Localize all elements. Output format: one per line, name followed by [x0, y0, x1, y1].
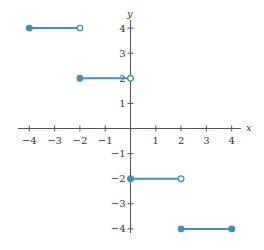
step-segment — [27, 25, 83, 31]
y-tick-label: −4 — [111, 223, 126, 234]
open-endpoint — [128, 76, 134, 82]
closed-endpoint — [128, 176, 134, 182]
x-tick-label: −4 — [22, 135, 37, 146]
y-tick-label: 4 — [119, 23, 125, 34]
x-tick-label: 2 — [178, 135, 184, 146]
axes — [18, 20, 241, 233]
step-segment — [128, 176, 184, 182]
x-axis-label: x — [246, 122, 252, 133]
y-tick-label: −3 — [111, 198, 126, 209]
y-tick-label: −2 — [111, 173, 126, 184]
closed-endpoint — [229, 226, 235, 232]
closed-endpoint — [27, 25, 33, 31]
closed-endpoint — [178, 226, 184, 232]
x-tick-label: 3 — [203, 135, 209, 146]
y-tick-label: 3 — [119, 48, 125, 59]
open-endpoint — [77, 25, 83, 31]
x-tick-label: −1 — [98, 135, 113, 146]
y-tick-label: −1 — [111, 148, 126, 159]
x-tick-label: −2 — [73, 135, 88, 146]
open-endpoint — [178, 176, 184, 182]
step-segment — [178, 226, 234, 232]
y-axis-label: y — [126, 8, 133, 19]
step-function-chart: −4−3−2−11234−4−3−2−11234 x y — [0, 0, 264, 250]
closed-endpoint — [77, 76, 83, 82]
x-tick-label: 4 — [229, 135, 235, 146]
x-tick-label: −3 — [47, 135, 62, 146]
x-tick-label: 1 — [153, 135, 159, 146]
y-tick-label: 1 — [119, 98, 125, 109]
